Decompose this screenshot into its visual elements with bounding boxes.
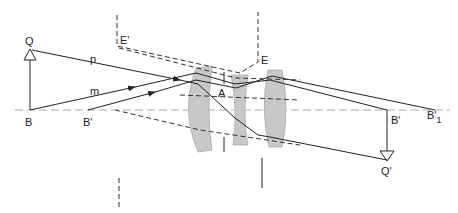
label-B-prime: B' bbox=[83, 116, 92, 128]
label-E: E bbox=[261, 54, 268, 66]
label-A: A bbox=[218, 87, 226, 99]
lens-1 bbox=[188, 66, 212, 152]
label-B-prime-1: B'1 bbox=[427, 109, 441, 125]
label-p: p bbox=[90, 53, 96, 65]
label-E-prime: E' bbox=[120, 34, 129, 46]
label-m: m bbox=[90, 85, 99, 97]
pupil-line-e bbox=[117, 12, 258, 73]
label-Q-prime: Q' bbox=[381, 165, 392, 177]
optical-diagram: Q B B' p m E' E A B' B'1 Q' bbox=[0, 0, 458, 213]
label-B: B bbox=[25, 116, 32, 128]
label-Q: Q bbox=[25, 35, 34, 47]
label-B-prime-image: B' bbox=[391, 114, 400, 126]
